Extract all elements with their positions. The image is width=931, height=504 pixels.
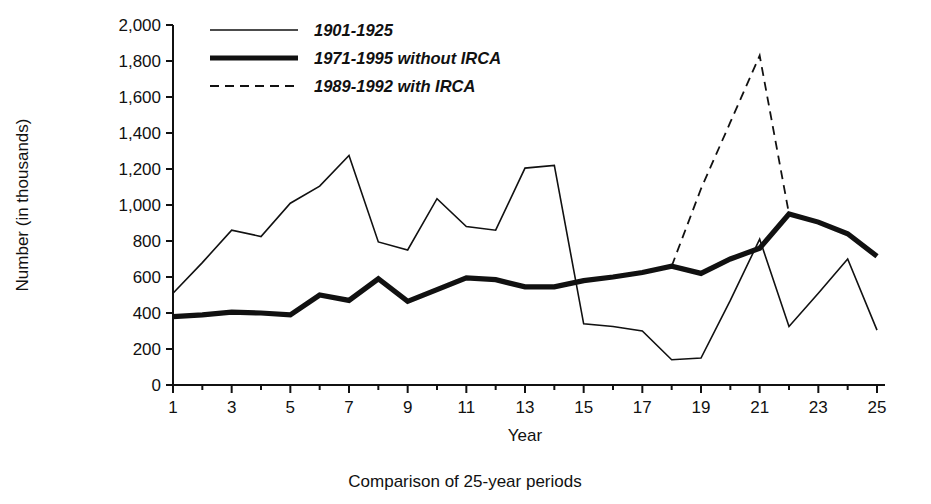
y-tick-label: 1,200: [118, 160, 161, 179]
y-axis-title: Number (in thousands): [13, 119, 32, 292]
y-axis: 2,0001,8001,6001,4001,2001,0008006004002…: [118, 16, 173, 395]
x-tick-label: 21: [750, 398, 769, 417]
x-tick-label: 5: [286, 398, 295, 417]
x-tick-label: 9: [403, 398, 412, 417]
series-thick-solid: [173, 214, 877, 317]
chart-figure: 2,0001,8001,6001,4001,2001,0008006004002…: [0, 0, 931, 504]
line-chart-svg: 2,0001,8001,6001,4001,2001,0008006004002…: [0, 0, 931, 504]
y-tick-label: 200: [133, 340, 161, 359]
x-axis: 135791113151719212325: [168, 385, 886, 417]
y-tick-label: 800: [133, 232, 161, 251]
legend-label-0: 1901-1925: [314, 21, 394, 39]
x-tick-label: 7: [344, 398, 353, 417]
x-tick-label: 3: [227, 398, 236, 417]
x-tick-label: 1: [168, 398, 177, 417]
x-tick-label: 13: [516, 398, 535, 417]
y-tick-label: 400: [133, 304, 161, 323]
chart-caption: Comparison of 25-year periods: [348, 472, 581, 491]
y-tick-label: 600: [133, 268, 161, 287]
y-tick-label: 2,000: [118, 16, 161, 35]
x-tick-label: 17: [633, 398, 652, 417]
series-thin-solid: [173, 156, 877, 360]
x-tick-label: 25: [868, 398, 887, 417]
chart-legend: 1901-19251971-1995 without IRCA1989-1992…: [210, 21, 501, 95]
x-tick-label: 11: [458, 398, 476, 417]
legend-label-1: 1971-1995 without IRCA: [314, 49, 501, 67]
series-layer: [173, 56, 877, 360]
legend-label-2: 1989-1992 with IRCA: [314, 77, 475, 95]
y-tick-label: 0: [152, 376, 161, 395]
y-tick-label: 1,400: [118, 124, 161, 143]
y-tick-label: 1,000: [118, 196, 161, 215]
y-tick-label: 1,600: [118, 88, 161, 107]
x-tick-label: 23: [809, 398, 828, 417]
x-tick-label: 15: [574, 398, 593, 417]
x-tick-label: 19: [692, 398, 711, 417]
y-tick-label: 1,800: [118, 52, 161, 71]
x-axis-title: Year: [508, 426, 543, 445]
